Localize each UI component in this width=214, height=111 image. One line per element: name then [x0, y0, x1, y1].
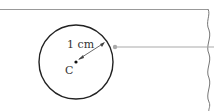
arrowhead-outer [100, 42, 105, 47]
center-point [74, 60, 77, 63]
center-label: C [65, 65, 73, 76]
pointer-dot [113, 45, 117, 49]
radius-label: 1 cm [67, 39, 94, 50]
diagram-canvas [0, 0, 214, 111]
arrowhead-inner [78, 55, 84, 60]
torn-edge [208, 9, 210, 111]
